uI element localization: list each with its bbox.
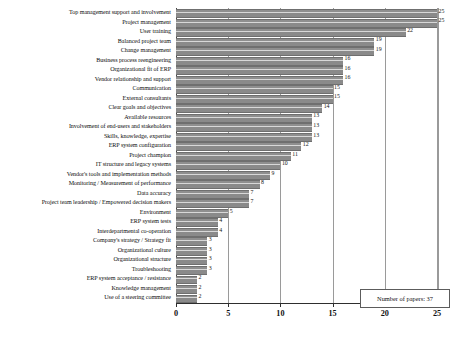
- bar-value-label: 25: [437, 16, 444, 26]
- bar-value-label: 4: [218, 216, 222, 226]
- category-label: ERP system tests: [0, 217, 174, 227]
- bar-row: 9: [176, 170, 437, 180]
- bar-value-label: 22: [406, 26, 413, 36]
- category-label: Project champion: [0, 151, 174, 161]
- bar-row: 19: [176, 46, 437, 56]
- category-label: Business process reengineering: [0, 56, 174, 66]
- bar-row: 19: [176, 37, 437, 47]
- x-tick-label: 20: [381, 309, 389, 318]
- bar-value-label: 2: [197, 273, 201, 283]
- x-tick-label: 10: [276, 309, 284, 318]
- bar-row: 11: [176, 151, 437, 161]
- bar-row: 22: [176, 27, 437, 37]
- category-label: Troubleshooting: [0, 265, 174, 275]
- bar-row: 16: [176, 75, 437, 85]
- bar-row: 3: [176, 265, 437, 275]
- bar-row: 14: [176, 103, 437, 113]
- bar-value-label: 11: [291, 150, 298, 160]
- bar-row: 2: [176, 274, 437, 284]
- bar-row: 13: [176, 122, 437, 132]
- category-label: Monitoring / Measurement of performance: [0, 179, 174, 189]
- bar-row: 16: [176, 65, 437, 75]
- category-label: Organizational structure: [0, 255, 174, 265]
- category-label: Vendor's tools and implementation method…: [0, 170, 174, 180]
- bar-row: 13: [176, 113, 437, 123]
- x-tick-label: 25: [433, 309, 441, 318]
- bar-row: 4: [176, 217, 437, 227]
- category-label: Involvement of end-users and stakeholder…: [0, 122, 174, 132]
- bar-row: 3: [176, 246, 437, 256]
- category-label: IT structure and legacy systems: [0, 160, 174, 170]
- bar-row: 25: [176, 18, 437, 28]
- x-tick-mark: [280, 304, 281, 307]
- legend-box: Number of papers: 37: [360, 289, 450, 308]
- bar-value-label: 15: [333, 83, 340, 93]
- x-tick-mark: [176, 304, 177, 307]
- category-label: Interdepartmental co-operation: [0, 227, 174, 237]
- bar-value-label: 4: [218, 226, 222, 236]
- category-label: Use of a steering committee: [0, 293, 174, 303]
- bar-value-label: 3: [207, 254, 211, 264]
- category-label: ERP system configuration: [0, 141, 174, 151]
- bars-layer: 2525221919161616151514131313121110987754…: [176, 8, 437, 303]
- horizontal-bar-chart: Top management support and involvementPr…: [0, 0, 455, 340]
- bar-value-label: 13: [312, 131, 319, 141]
- bar-row: 4: [176, 227, 437, 237]
- bar-value-label: 3: [207, 235, 211, 245]
- category-label: Change management: [0, 46, 174, 56]
- bar-row: 10: [176, 160, 437, 170]
- category-label: Available resources: [0, 113, 174, 123]
- category-label: External consultants: [0, 94, 174, 104]
- category-label: Balanced project team: [0, 37, 174, 47]
- category-label: Clear goals and objectives: [0, 103, 174, 113]
- bar-value-label: 3: [207, 264, 211, 274]
- category-label: User training: [0, 27, 174, 37]
- legend-label: Number of papers: 37: [377, 295, 433, 302]
- bar-value-label: 5: [228, 207, 232, 217]
- category-label: Organizational culture: [0, 246, 174, 256]
- bar-value-label: 12: [301, 140, 308, 150]
- bar-value-label: 13: [312, 121, 319, 131]
- category-label: Knowledge management: [0, 284, 174, 294]
- category-label: ERP system acceptance / resistance: [0, 274, 174, 284]
- bar-row: 3: [176, 255, 437, 265]
- bar-row: 7: [176, 198, 437, 208]
- bar-value-label: 19: [374, 45, 381, 55]
- bar: [176, 295, 197, 304]
- category-label: Company's strategy / Strategy fit: [0, 236, 174, 246]
- x-tick-label: 5: [226, 309, 230, 318]
- bar-row: 16: [176, 56, 437, 66]
- x-tick-mark: [333, 304, 334, 307]
- bar-value-label: 16: [343, 73, 350, 83]
- bar-value-label: 9: [270, 169, 274, 179]
- gridline: [437, 8, 438, 303]
- bar-row: 5: [176, 208, 437, 218]
- bar-row: 7: [176, 189, 437, 199]
- bar-value-label: 7: [249, 197, 253, 207]
- bar-value-label: 15: [333, 92, 340, 102]
- bar-value-label: 16: [343, 64, 350, 74]
- bar-value-label: 2: [197, 283, 201, 293]
- bar-value-label: 3: [207, 245, 211, 255]
- category-label: Organizational fit of ERP: [0, 65, 174, 75]
- bar-value-label: 7: [249, 188, 253, 198]
- bar-value-label: 13: [312, 111, 319, 121]
- bar-value-label: 16: [343, 54, 350, 64]
- category-label-column: Top management support and involvementPr…: [0, 8, 174, 303]
- bar-value-label: 25: [437, 7, 444, 17]
- bar-row: 25: [176, 8, 437, 18]
- bar-value-label: 19: [374, 35, 381, 45]
- bar-value-label: 10: [280, 159, 287, 169]
- category-label: Top management support and involvement: [0, 8, 174, 18]
- category-label: Vendor relationship and support: [0, 75, 174, 85]
- category-label: Communication: [0, 84, 174, 94]
- x-tick-mark: [228, 304, 229, 307]
- x-tick-label: 0: [174, 309, 178, 318]
- x-tick-label: 15: [329, 309, 337, 318]
- bar-row: 15: [176, 84, 437, 94]
- bar-row: 12: [176, 141, 437, 151]
- category-label: Skills, knowledge, expertise: [0, 132, 174, 142]
- bar-row: 15: [176, 94, 437, 104]
- category-label: Project management: [0, 18, 174, 28]
- category-label: Project team leadership / Empowered deci…: [0, 198, 174, 208]
